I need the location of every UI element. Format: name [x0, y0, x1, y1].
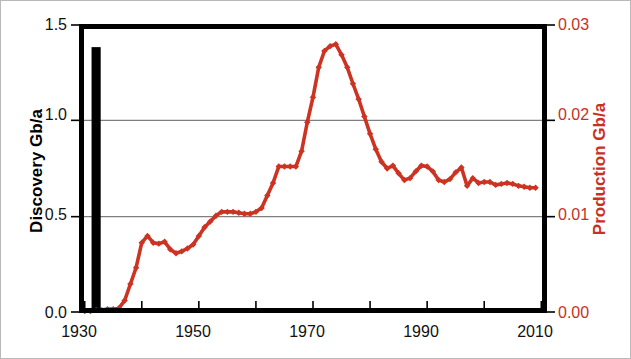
x-axis-tick-label-2010: 2010	[505, 323, 565, 341]
left-axis-tick-label-2: 1.0	[23, 106, 67, 124]
right-axis-tick-label-3: 0.01	[558, 206, 610, 224]
production-markers	[82, 41, 539, 314]
right-axis-tick-label-1: 0.03	[558, 16, 610, 34]
y-axis-ticks	[71, 25, 555, 312]
gridlines	[79, 120, 547, 216]
right-axis-tick-label-2: 0.02	[558, 106, 610, 124]
production-line	[85, 44, 536, 311]
x-axis-tick-label-1970: 1970	[277, 323, 337, 341]
x-axis-tick-label-1930: 1930	[49, 323, 109, 341]
x-axis-tick-label-1990: 1990	[391, 323, 451, 341]
x-axis-tick-label-1950: 1950	[163, 323, 223, 341]
x-axis-ticks	[85, 301, 542, 308]
discovery-bars	[92, 47, 101, 313]
left-axis-title: Discovery Gb/a	[27, 56, 47, 286]
left-axis-tick-label-3: 0.5	[23, 206, 67, 224]
left-axis-tick-label-4: 0.0	[23, 304, 67, 322]
axis-frame	[79, 24, 547, 313]
chart-canvas	[79, 24, 547, 313]
left-axis-tick-label-1: 1.5	[23, 16, 67, 34]
plot-area	[79, 24, 547, 313]
chart-figure: Discovery Gb/a Production Gb/a 1.5 1.0 0…	[0, 0, 631, 359]
right-axis-title: Production Gb/a	[590, 54, 610, 284]
right-axis-tick-label-4: 0.00	[558, 304, 610, 322]
